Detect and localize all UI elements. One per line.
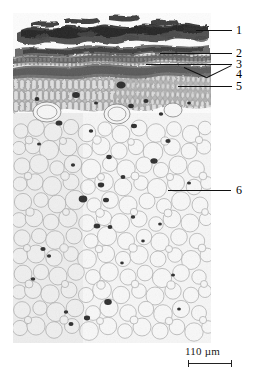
callout-label-6: 6: [236, 184, 242, 196]
callout-label-1: 1: [236, 24, 242, 36]
callout-leader-3: [146, 64, 232, 65]
callout-leader-6: [168, 190, 231, 191]
scale-bar-rule: [188, 360, 232, 366]
scale-bar-line: [188, 363, 232, 364]
micrograph-image: [13, 13, 211, 343]
micrograph-figure: 1 2 3 4 5 6 110 µm: [0, 0, 254, 373]
scale-bar-label: 110 µm: [185, 345, 243, 357]
scale-bar-cap-left: [188, 360, 189, 367]
callout-leader-2: [160, 53, 232, 54]
callout-leader-5: [178, 86, 232, 87]
scale-bar-cap-right: [231, 360, 232, 367]
scale-bar-group: 110 µm: [185, 345, 243, 366]
callout-label-5: 5: [236, 80, 242, 92]
micrograph-canvas: [13, 13, 211, 343]
callout-leader-1: [196, 30, 232, 31]
